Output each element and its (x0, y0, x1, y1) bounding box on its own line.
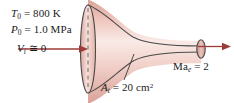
inlet-velocity-label: Vi ≅ 0 (17, 43, 46, 56)
inlet-pressure-label: P0 = 1.0 MPa (11, 24, 72, 37)
throat-area-label: At = 20 cm2 (101, 82, 153, 95)
exit-mach-label: Mae = 2 (173, 61, 209, 74)
inlet-temperature-label: T0 = 800 K (11, 8, 61, 21)
exit-opening (197, 40, 205, 58)
nozzle-figure: T0 = 800 K P0 = 1.0 MPa Vi ≅ 0 At = 20 c… (0, 0, 234, 103)
